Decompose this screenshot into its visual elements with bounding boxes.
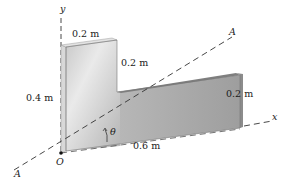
l-shaped-plate-diagram: y 0.2 m 0.2 m 0.4 m 0.2 m 0.6 m A A O x … <box>0 0 284 183</box>
axis-A-end-label: A <box>229 27 236 37</box>
x-axis-line <box>244 121 272 126</box>
dim-left-height: 0.4 m <box>26 93 53 103</box>
dim-top-width: 0.2 m <box>72 29 99 39</box>
y-axis-label: y <box>60 4 65 14</box>
dim-bottom-length: 0.6 m <box>133 141 160 151</box>
axis-A-start-label: A <box>14 169 21 179</box>
plate-left-edge <box>61 45 66 153</box>
angle-theta-label: θ <box>110 127 116 137</box>
dim-right-height: 0.2 m <box>226 89 253 99</box>
x-axis-label: x <box>272 112 277 122</box>
origin-point <box>59 151 63 155</box>
dim-step-height: 0.2 m <box>121 58 148 68</box>
origin-label: O <box>56 157 64 167</box>
